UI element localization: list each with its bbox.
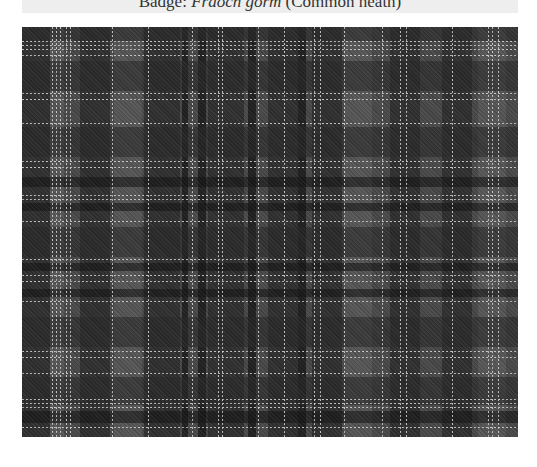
tartan-vertical-line [56,27,57,437]
tartan-horizontal-line [22,221,518,222]
tartan-vertical-line [218,27,219,437]
tartan-horizontal-line [22,55,518,56]
tartan-vertical-line [192,27,193,437]
tartan-vertical-line [320,27,321,437]
tartan-horizontal-line [22,399,518,400]
tartan-horizontal-line [22,259,518,260]
caption-prefix: Badge: [139,0,191,11]
tartan-vertical-line [112,27,113,437]
tartan-vertical-line [382,27,383,437]
tartan-vertical-line [70,27,71,437]
tartan-horizontal-line [22,161,518,162]
badge-caption: Badge: Fraoch gorm (Common heath) [22,0,518,12]
tartan-overcheck-lines [22,27,518,437]
tartan-horizontal-line [22,281,518,282]
tartan-horizontal-line [22,41,518,42]
tartan-vertical-line [488,27,489,437]
tartan-vertical-line [492,27,493,437]
tartan-horizontal-line [22,195,518,196]
tartan-horizontal-line [22,45,518,46]
tartan-vertical-line [284,27,285,437]
tartan-horizontal-line [22,403,518,404]
caption-bar: Badge: Fraoch gorm (Common heath) [22,0,518,13]
tartan-vertical-line [222,27,223,437]
tartan-vertical-line [60,27,61,437]
tartan-vertical-line [406,27,407,437]
tartan-vertical-line [148,27,149,437]
tartan-swatch-image [22,27,518,437]
tartan-horizontal-line [22,407,518,408]
tartan-vertical-line [400,27,401,437]
tartan-vertical-line [452,27,453,437]
tartan-horizontal-line [22,199,518,200]
tartan-vertical-line [52,27,53,437]
tartan-horizontal-line [22,351,518,352]
tartan-horizontal-line [22,93,518,94]
tartan-horizontal-line [22,427,518,428]
tartan-vertical-line [66,27,67,437]
tartan-horizontal-line [22,357,518,358]
tartan-horizontal-line [22,99,518,100]
tartan-horizontal-line [22,301,518,302]
badge-english-name: (Common heath) [281,0,401,11]
tartan-vertical-line [314,27,315,437]
tartan-vertical-line [344,27,345,437]
tartan-vertical-line [498,27,499,437]
tartan-horizontal-line [22,167,518,168]
tartan-vertical-line [258,27,259,437]
tartan-horizontal-line [22,49,518,50]
tartan-horizontal-line [22,123,518,124]
badge-gaelic-name: Fraoch gorm [191,0,281,11]
tartan-horizontal-line [22,373,518,374]
tartan-horizontal-line [22,275,518,276]
